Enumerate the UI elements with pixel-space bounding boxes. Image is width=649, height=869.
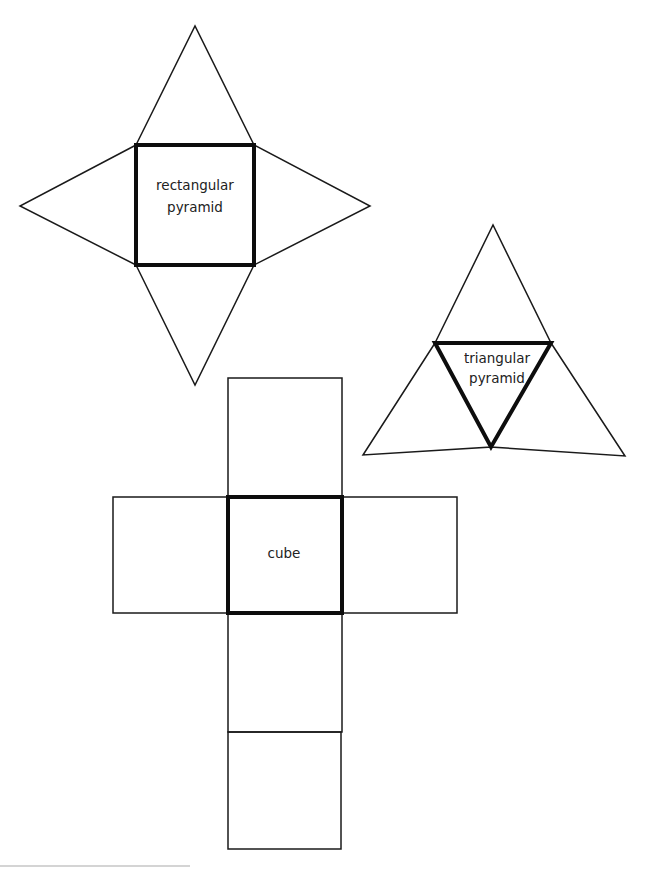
cube-bottom-face	[228, 732, 341, 849]
triangular-pyramid-net: triangular pyramid	[363, 225, 625, 456]
footer-divider	[0, 865, 190, 867]
tri-pyramid-top-face	[435, 225, 551, 343]
rect-pyramid-label-line1: rectangular	[156, 177, 234, 193]
cube-right-face	[342, 497, 457, 613]
tri-pyramid-label-line2: pyramid	[469, 370, 525, 386]
cube-top-face	[228, 378, 342, 497]
rect-pyramid-right-face	[254, 145, 370, 265]
rectangular-pyramid-net: rectangular pyramid	[20, 26, 370, 385]
rect-pyramid-left-face	[20, 145, 136, 265]
rect-pyramid-label-line2: pyramid	[167, 199, 223, 215]
nets-diagram: rectangular pyramid triangular pyramid c…	[0, 0, 649, 869]
cube-left-face	[113, 497, 228, 613]
cube-label: cube	[268, 545, 301, 561]
rect-pyramid-bottom-face	[136, 265, 254, 385]
cube-net: cube	[113, 378, 457, 849]
cube-lower-face	[228, 613, 342, 732]
rect-pyramid-top-face	[136, 26, 254, 145]
tri-pyramid-label-line1: triangular	[464, 350, 531, 366]
